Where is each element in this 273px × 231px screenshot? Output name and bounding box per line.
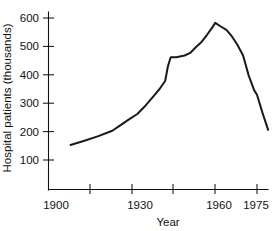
y-tick-label-400: 400 <box>20 69 39 81</box>
x-tick-label-1960: 1960 <box>206 199 232 211</box>
y-tick-label-300: 300 <box>20 97 39 109</box>
line-chart-figure: 600 500 400 300 200 100 1900 1930 1960 1… <box>0 0 273 231</box>
chart-canvas: 600 500 400 300 200 100 1900 1930 1960 1… <box>0 0 273 231</box>
x-tick-labels: 1900 1930 1960 1975 <box>43 199 269 211</box>
y-tick-label-600: 600 <box>20 12 39 24</box>
y-tick-label-500: 500 <box>20 40 39 52</box>
y-axis-title: Hospital patients (thousands) <box>1 23 13 172</box>
x-tick-label-1900: 1900 <box>43 199 69 211</box>
x-axis-title: Year <box>156 216 179 228</box>
y-tick-labels: 600 500 400 300 200 100 <box>20 12 39 166</box>
x-tick-label-1975: 1975 <box>243 199 269 211</box>
y-tick-label-100: 100 <box>20 154 39 166</box>
x-tick-label-1930: 1930 <box>127 199 153 211</box>
y-tick-label-200: 200 <box>20 126 39 138</box>
data-series-line <box>71 23 269 145</box>
